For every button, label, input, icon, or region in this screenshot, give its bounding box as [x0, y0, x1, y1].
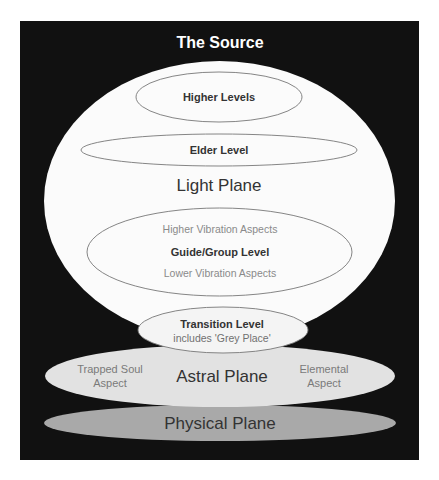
trapped-soul-label-line2: Aspect — [93, 377, 127, 389]
higher-vibration-label: Higher Vibration Aspects — [163, 223, 278, 235]
source-title: The Source — [176, 34, 263, 51]
elder-level-label: Elder Level — [190, 144, 249, 156]
light-plane-label: Light Plane — [176, 176, 261, 195]
elemental-label-line1: Elemental — [300, 363, 349, 375]
higher-levels-label: Higher Levels — [183, 91, 255, 103]
lower-vibration-label: Lower Vibration Aspects — [164, 267, 276, 279]
astral-plane-label: Astral Plane — [176, 367, 268, 386]
planes-diagram: The Source Physical Plane Astral Plane T… — [0, 0, 439, 480]
trapped-soul-label-line1: Trapped Soul — [77, 363, 143, 375]
guide-group-label: Guide/Group Level — [171, 246, 269, 258]
grey-place-label: includes 'Grey Place' — [173, 332, 270, 344]
transition-level-label: Transition Level — [180, 318, 264, 330]
light-plane-ellipse — [44, 61, 395, 341]
physical-plane-label: Physical Plane — [164, 414, 276, 433]
transition-level-ellipse — [138, 307, 308, 353]
elemental-label-line2: Aspect — [307, 377, 341, 389]
